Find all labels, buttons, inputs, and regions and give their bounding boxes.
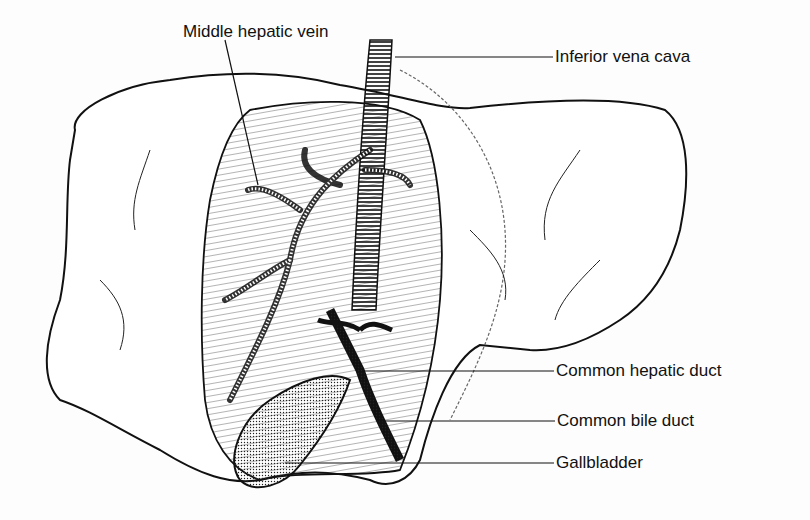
label-middle-hepatic-vein: Middle hepatic vein	[183, 22, 329, 42]
label-common-hepatic-duct: Common hepatic duct	[556, 361, 721, 381]
label-common-bile-duct: Common bile duct	[557, 411, 694, 431]
label-gallbladder: Gallbladder	[556, 453, 643, 473]
liver-illustration	[0, 0, 810, 520]
label-inferior-vena-cava: Inferior vena cava	[555, 47, 690, 67]
liver-diagram: Middle hepatic vein Inferior vena cava C…	[0, 0, 810, 520]
